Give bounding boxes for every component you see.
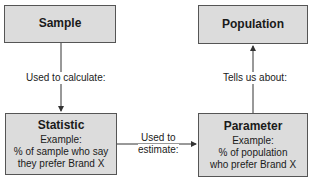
parameter-box: Parameter Example: % of population who p… (198, 113, 308, 177)
population-box: Population (198, 5, 308, 44)
statistic-example-label: Example: (6, 134, 116, 146)
sample-box: Sample (4, 5, 116, 43)
statistic-example-line1: % of sample who say (6, 146, 116, 158)
parameter-example-line1: % of population (199, 147, 307, 159)
population-title: Population (199, 6, 307, 42)
edge-label-line1: Used to (138, 132, 179, 144)
edge-label-line2: estimate: (138, 144, 179, 156)
edge-label-used-to-estimate: Used to estimate: (138, 132, 179, 156)
statistic-title: Statistic (6, 118, 116, 132)
statistic-box: Statistic Example: % of sample who say t… (5, 113, 117, 175)
edge-label-used-to-calculate: Used to calculate: (26, 72, 106, 84)
sample-title: Sample (5, 6, 115, 41)
parameter-example-label: Example: (199, 135, 307, 147)
statistic-example-line2: they prefer Brand X (6, 158, 116, 170)
parameter-example-line2: who prefer Brand X (199, 159, 307, 171)
parameter-title: Parameter (199, 119, 307, 133)
edge-label-tells-us-about: Tells us about: (223, 72, 287, 84)
